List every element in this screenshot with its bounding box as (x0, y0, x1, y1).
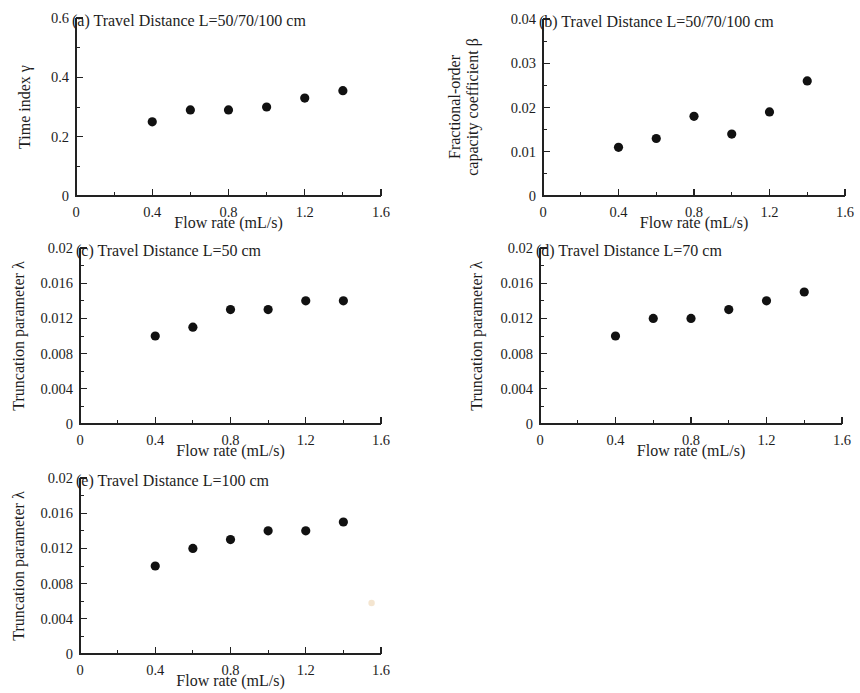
x-tick-label: 0.4 (143, 204, 162, 220)
x-tick-label: 0.4 (609, 204, 628, 220)
x-axis-ticks (76, 189, 381, 196)
panel-c-plot: 00.40.81.21.600.0040.0080.0120.0160.02(c… (0, 232, 430, 463)
scan-artifact (368, 600, 374, 606)
data-series (148, 86, 348, 126)
data-point (186, 105, 195, 114)
y-tick-label: 0.008 (40, 346, 73, 362)
data-point (262, 102, 271, 111)
panel-title: (d) Travel Distance L=70 cm (536, 242, 722, 260)
axes-b (543, 19, 845, 196)
y-tick-labels: 00.20.40.6 (51, 10, 70, 204)
y-axis-title-line2: capacity coefficient β (464, 38, 482, 176)
data-point (686, 314, 695, 323)
y-axis-title-text: Time index γ (16, 65, 34, 149)
data-point (727, 129, 736, 138)
panel-b-plot: 00.40.81.21.600.010.020.030.04(b) Travel… (430, 0, 860, 235)
figure-canvas: 00.40.81.21.600.20.40.6(a) Travel Distan… (0, 0, 860, 693)
axis-spines (540, 248, 842, 424)
y-tick-label: 0.004 (40, 381, 73, 397)
data-point (762, 296, 771, 305)
y-tick-label: 0.02 (511, 100, 536, 116)
y-tick-label: 0.016 (500, 275, 533, 291)
y-axis-title: Fractional-ordercapacity coefficient β (446, 38, 482, 176)
x-tick-label: 0.4 (146, 432, 165, 448)
x-tick-label: 1.6 (372, 432, 390, 448)
y-tick-label: 0.012 (500, 310, 533, 326)
y-tick-label: 0 (66, 416, 73, 432)
data-point (151, 331, 160, 340)
y-tick-label: 0.008 (500, 346, 533, 362)
x-tick-label: 0 (539, 204, 546, 220)
panel-a-plot: 00.40.81.21.600.20.40.6(a) Travel Distan… (0, 0, 430, 235)
data-point (264, 305, 273, 314)
y-tick-label: 0 (66, 646, 73, 662)
data-point (300, 94, 309, 103)
data-point (614, 143, 623, 152)
y-tick-label: 0 (529, 188, 536, 204)
panel-e-plot: 00.40.81.21.600.0040.0080.0120.0160.02(e… (0, 460, 430, 693)
y-axis-ticks (540, 248, 547, 424)
y-tick-label: 0.012 (40, 540, 73, 556)
y-tick-labels: 00.010.020.030.04 (511, 11, 537, 204)
data-point (689, 112, 698, 121)
data-point (649, 314, 658, 323)
data-point (148, 117, 157, 126)
axes-e (80, 478, 381, 654)
y-tick-label: 0.01 (511, 144, 536, 160)
x-tick-label: 0 (76, 432, 83, 448)
data-point (765, 107, 774, 116)
panel-title: (a) Travel Distance L=50/70/100 cm (72, 12, 306, 30)
data-point (226, 305, 235, 314)
y-tick-label: 0.004 (40, 611, 73, 627)
data-point (611, 331, 620, 340)
panel-e: 00.40.81.21.600.0040.0080.0120.0160.02(e… (0, 460, 430, 693)
panel-a: 00.40.81.21.600.20.40.6(a) Travel Distan… (0, 0, 430, 235)
data-series (151, 296, 348, 340)
y-axis-title: Truncation parameter λ (10, 261, 28, 411)
y-tick-label: 0.004 (500, 381, 533, 397)
y-axis-ticks (76, 18, 83, 196)
x-tick-label: 1.2 (297, 432, 315, 448)
axes-c (80, 248, 381, 424)
panel-d: 00.40.81.21.600.0040.0080.0120.0160.02(d… (430, 232, 860, 463)
data-point (803, 76, 812, 85)
x-tick-label: 1.6 (372, 662, 390, 678)
data-point (226, 535, 235, 544)
y-tick-label: 0.2 (51, 129, 69, 145)
x-tick-label: 1.2 (297, 662, 315, 678)
panel-c: 00.40.81.21.600.0040.0080.0120.0160.02(c… (0, 232, 430, 463)
x-tick-label: 1.2 (760, 204, 778, 220)
y-axis-ticks (80, 248, 87, 424)
data-point (724, 305, 733, 314)
data-point (188, 323, 197, 332)
x-tick-label: 0 (72, 204, 79, 220)
x-axis-title: Flow rate (mL/s) (176, 442, 284, 460)
x-tick-label: 1.2 (296, 204, 314, 220)
y-tick-labels: 00.0040.0080.0120.0160.02 (40, 240, 73, 432)
data-point (188, 544, 197, 553)
x-axis-ticks (80, 647, 381, 654)
y-tick-label: 0.02 (508, 240, 533, 256)
data-point (264, 526, 273, 535)
y-axis-title-line1: Fractional-order (446, 54, 463, 159)
x-tick-label: 0.4 (606, 432, 625, 448)
data-series (611, 287, 809, 340)
y-axis-title-text: Truncation parameter λ (10, 261, 28, 411)
y-axis-title-text: Truncation parameter λ (10, 491, 28, 641)
y-axis-title: Truncation parameter λ (10, 491, 28, 641)
y-axis-title: Truncation parameter λ (468, 261, 486, 411)
data-series (614, 76, 812, 152)
panel-d-plot: 00.40.81.21.600.0040.0080.0120.0160.02(d… (430, 232, 860, 463)
data-series (151, 517, 348, 570)
y-axis-title-text: Truncation parameter λ (468, 261, 486, 411)
x-axis-title: Flow rate (mL/s) (640, 214, 748, 232)
y-tick-label: 0.016 (40, 505, 73, 521)
x-axis-title: Flow rate (mL/s) (174, 214, 282, 232)
y-tick-labels: 00.0040.0080.0120.0160.02 (40, 470, 73, 662)
y-tick-label: 0.4 (51, 69, 70, 85)
axis-spines (543, 19, 845, 196)
x-axis-title: Flow rate (mL/s) (637, 442, 745, 460)
panel-title: (e) Travel Distance L=100 cm (76, 472, 270, 490)
y-tick-label: 0.02 (48, 240, 73, 256)
x-tick-label: 1.2 (757, 432, 775, 448)
